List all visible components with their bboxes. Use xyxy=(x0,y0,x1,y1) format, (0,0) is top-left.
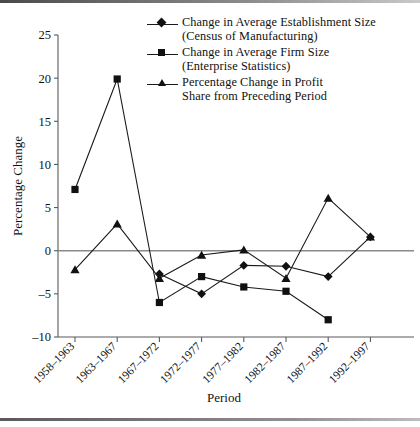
x-axis-title: Period xyxy=(207,390,241,405)
y-tick-label: 10 xyxy=(39,158,52,172)
x-tick-label: 1967–1972 xyxy=(115,340,161,386)
square-marker-icon xyxy=(240,283,247,290)
chart-canvas: –10–50510152025 1958–19631963–19671967–1… xyxy=(0,0,420,427)
square-marker-icon xyxy=(325,316,332,323)
x-tick-label: 1963–1967 xyxy=(73,340,119,386)
y-axis: –10–50510152025 xyxy=(31,28,58,344)
diamond-marker-icon xyxy=(282,262,291,271)
x-tick-label: 1992–1997 xyxy=(326,340,372,386)
y-axis-title: Percentage Change xyxy=(10,136,25,236)
square-marker-icon xyxy=(114,75,121,82)
x-tick-label: 1987–1992 xyxy=(284,340,330,386)
series-line xyxy=(159,237,370,294)
x-axis: 1958–19631963–19671967–19721972–19771977… xyxy=(31,337,414,386)
square-marker-icon xyxy=(198,273,205,280)
y-tick-label: 25 xyxy=(39,28,52,42)
diamond-marker-icon xyxy=(239,261,248,270)
series-square xyxy=(71,75,331,323)
y-tick-label: 5 xyxy=(45,201,51,215)
y-tick-label: 0 xyxy=(45,244,51,258)
series-triangle xyxy=(70,194,375,282)
x-tick-label: 1972–1977 xyxy=(158,340,204,386)
y-tick-label: –10 xyxy=(31,330,51,344)
chart-page: Change in Average Establishment Size (Ce… xyxy=(0,0,420,427)
y-tick-label: –5 xyxy=(38,287,52,301)
series-diamond xyxy=(155,233,375,299)
square-marker-icon xyxy=(156,299,163,306)
y-tick-label: 15 xyxy=(39,115,52,129)
triangle-marker-icon xyxy=(113,220,122,228)
chart-plot-area: –10–50510152025 1958–19631963–19671967–1… xyxy=(0,0,420,427)
x-tick-label: 1977–1982 xyxy=(200,340,246,386)
x-tick-label: 1982–1987 xyxy=(242,340,288,386)
square-marker-icon xyxy=(282,288,289,295)
y-tick-label: 20 xyxy=(39,72,52,86)
series-line xyxy=(75,79,328,320)
triangle-marker-icon xyxy=(281,274,290,282)
triangle-marker-icon xyxy=(324,194,333,202)
square-marker-icon xyxy=(71,186,78,193)
diamond-marker-icon xyxy=(197,289,206,298)
triangle-marker-icon xyxy=(239,245,248,253)
data-series-group xyxy=(70,75,375,323)
series-line xyxy=(75,198,370,278)
x-tick-label: 1958–1963 xyxy=(31,340,77,386)
